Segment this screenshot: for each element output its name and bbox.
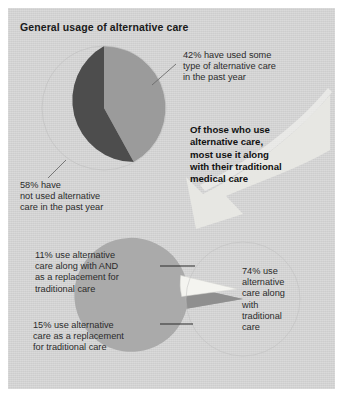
label-58-percent: 58% have not used alternative care in th… <box>20 180 150 214</box>
callout-middle-text: Of those who use alternative care, most … <box>190 124 310 185</box>
label-42-percent: 42% have used some type of alternative c… <box>183 50 313 84</box>
label-15-percent: 15% use alternative care as a replacemen… <box>33 320 155 354</box>
leader-line-58 <box>48 160 66 178</box>
label-74-percent: 74% use alternative care along with trad… <box>242 266 304 333</box>
infographic-figure: General usage of alternative care 42% ha… <box>0 0 342 396</box>
chart-title: General usage of alternative care <box>20 21 188 34</box>
label-11-percent: 11% use alternative care along with AND … <box>35 250 155 295</box>
top-pie-chart <box>42 46 166 170</box>
